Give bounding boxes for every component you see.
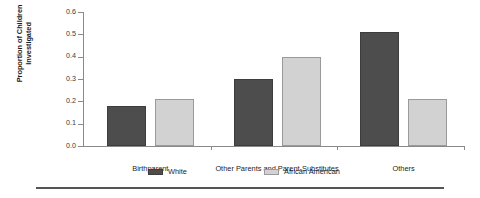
y-axis-title-line-2: Investigated bbox=[24, 22, 33, 65]
y-tick-label: 0.1 bbox=[66, 118, 76, 127]
legend-label: White bbox=[168, 167, 187, 176]
y-tick-label: 0.2 bbox=[66, 96, 76, 105]
y-tick-label: 0.5 bbox=[66, 29, 76, 38]
x-axis-line bbox=[83, 146, 465, 147]
y-tick-mark bbox=[78, 146, 84, 147]
y-axis-title: Proportion of Children Investigated bbox=[15, 0, 34, 103]
x-tick-mark bbox=[211, 146, 212, 150]
y-tick-mark bbox=[78, 101, 84, 102]
legend-item-white[interactable]: White bbox=[148, 167, 187, 176]
bottom-divider-rule bbox=[36, 187, 444, 189]
y-tick-mark bbox=[78, 124, 84, 125]
y-tick-mark bbox=[78, 79, 84, 80]
bar-african-american-2 bbox=[408, 99, 447, 146]
y-tick-label: 0.3 bbox=[66, 74, 76, 83]
bar-chart-figure: Proportion of Children Investigated 0.00… bbox=[0, 0, 480, 198]
y-tick-mark bbox=[78, 34, 84, 35]
bar-african-american-1 bbox=[282, 57, 321, 146]
x-tick-mark bbox=[464, 146, 465, 150]
x-tick-mark bbox=[337, 146, 338, 150]
legend-swatch-icon bbox=[148, 169, 163, 175]
y-tick-label: 0.0 bbox=[66, 141, 76, 150]
legend-label: African American bbox=[284, 167, 340, 176]
bar-white-1 bbox=[234, 79, 273, 146]
chart-legend: WhiteAfrican American bbox=[0, 167, 480, 179]
y-tick-mark bbox=[78, 57, 84, 58]
bar-african-american-0 bbox=[155, 99, 194, 146]
legend-item-african-american[interactable]: African American bbox=[264, 167, 340, 176]
y-tick-label: 0.4 bbox=[66, 51, 76, 60]
y-axis-title-line-1: Proportion of Children bbox=[15, 5, 24, 83]
y-tick-mark bbox=[78, 12, 84, 13]
plot-area: 0.00.10.20.30.40.50.6BirthparentOther Pa… bbox=[84, 12, 464, 146]
legend-swatch-icon bbox=[264, 169, 279, 175]
bar-white-2 bbox=[360, 32, 399, 146]
bar-white-0 bbox=[107, 106, 146, 146]
y-tick-label: 0.6 bbox=[66, 7, 76, 16]
